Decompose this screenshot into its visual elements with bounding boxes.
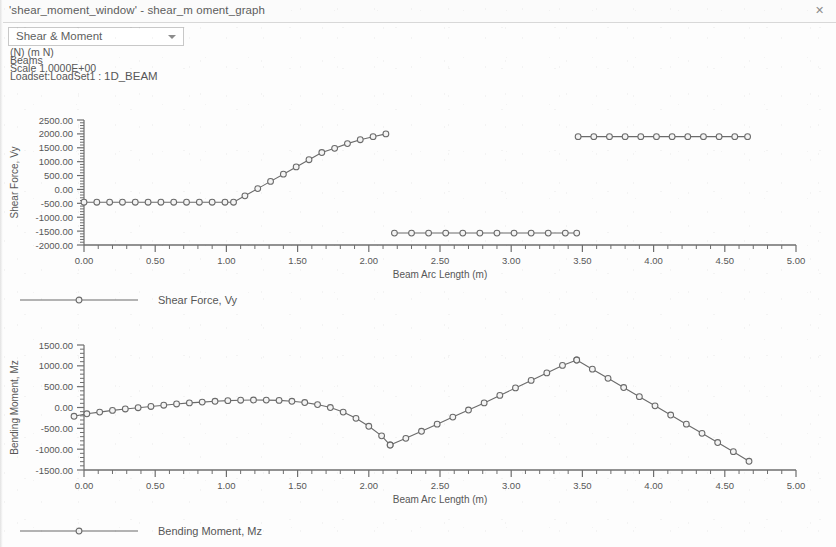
svg-text:-1500.00: -1500.00 [35, 226, 73, 237]
svg-text:2.50: 2.50 [431, 480, 450, 491]
svg-text:500.00: 500.00 [44, 381, 73, 392]
svg-text:5.00: 5.00 [787, 255, 806, 266]
svg-text:1500.00: 1500.00 [39, 142, 73, 153]
legend-shear-label: Shear Force, Vy [158, 294, 237, 306]
svg-text:1000.00: 1000.00 [39, 156, 73, 167]
svg-text:500.00: 500.00 [44, 170, 73, 181]
chevron-down-icon [168, 35, 176, 39]
svg-text:0.00: 0.00 [55, 402, 74, 413]
svg-text:-1500.00: -1500.00 [35, 465, 73, 476]
svg-text:1.00: 1.00 [217, 255, 236, 266]
svg-text:4.00: 4.00 [644, 480, 663, 491]
shear-moment-window: 'shear_moment_window' - shear_m oment_gr… [0, 0, 836, 547]
svg-text:2.00: 2.00 [360, 480, 379, 491]
svg-text:1500.00: 1500.00 [39, 340, 73, 351]
svg-text:1.50: 1.50 [288, 255, 307, 266]
legend-swatch-icon [18, 293, 140, 307]
svg-text:5.00: 5.00 [787, 480, 806, 491]
svg-text:0.50: 0.50 [146, 480, 165, 491]
svg-text:3.50: 3.50 [573, 480, 592, 491]
svg-text:3.00: 3.00 [502, 480, 521, 491]
svg-text:1.00: 1.00 [217, 480, 236, 491]
svg-text:1.50: 1.50 [288, 480, 307, 491]
info-loadset-name: 1D_BEAM [104, 70, 158, 82]
legend-moment-label: Bending Moment, Mz [158, 525, 262, 537]
view-select-value: Shear & Moment [16, 30, 102, 42]
svg-text:2500.00: 2500.00 [39, 115, 73, 126]
view-select[interactable]: Shear & Moment [8, 27, 184, 46]
svg-text:2.50: 2.50 [431, 255, 450, 266]
svg-text:Beam Arc Length (m): Beam Arc Length (m) [393, 494, 487, 505]
svg-text:0.50: 0.50 [146, 255, 165, 266]
close-icon[interactable]: ✕ [812, 3, 827, 17]
svg-text:Shear Force, Vy: Shear Force, Vy [9, 147, 20, 219]
svg-text:-500.00: -500.00 [41, 198, 73, 209]
svg-text:2.00: 2.00 [360, 255, 379, 266]
window-title: 'shear_moment_window' - shear_m oment_gr… [9, 4, 265, 16]
info-loadset-prefix: Loadset:LoadSet1 : [10, 70, 101, 82]
svg-text:4.00: 4.00 [644, 255, 663, 266]
svg-text:-1000.00: -1000.00 [35, 212, 73, 223]
svg-text:Bending Moment, Mz: Bending Moment, Mz [9, 360, 20, 455]
bending-moment-plot[interactable]: -1500.00-1000.00-500.000.00500.001000.00… [0, 325, 836, 540]
svg-text:3.50: 3.50 [573, 255, 592, 266]
svg-text:4.50: 4.50 [716, 480, 735, 491]
svg-text:2000.00: 2000.00 [39, 128, 73, 139]
svg-text:-1000.00: -1000.00 [35, 444, 73, 455]
svg-text:4.50: 4.50 [716, 255, 735, 266]
svg-text:1000.00: 1000.00 [39, 360, 73, 371]
plot-info-block: (N) (m N) Beams Scale 1.0000E+00 Loadset… [10, 47, 340, 91]
legend-swatch-icon [18, 524, 140, 538]
svg-text:0.00: 0.00 [75, 480, 94, 491]
shear-force-plot[interactable]: -2000.00-1500.00-1000.00-500.000.00500.0… [0, 100, 836, 315]
svg-text:Beam Arc Length (m): Beam Arc Length (m) [393, 269, 487, 280]
window-titlebar: 'shear_moment_window' - shear_m oment_gr… [0, 0, 836, 23]
svg-text:0.00: 0.00 [75, 255, 94, 266]
svg-text:-500.00: -500.00 [41, 423, 73, 434]
svg-text:0.00: 0.00 [55, 184, 74, 195]
svg-text:3.00: 3.00 [502, 255, 521, 266]
info-loadset: Loadset:LoadSet1 : 1D_BEAM [10, 71, 158, 82]
svg-text:-2000.00: -2000.00 [35, 240, 73, 251]
